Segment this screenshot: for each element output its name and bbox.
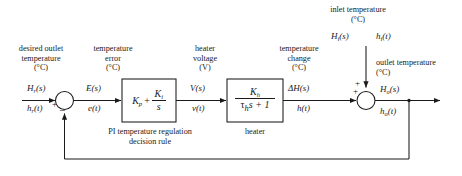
signal-outlet-laplace: Ho(s) — [380, 84, 399, 95]
signal-base: H — [27, 83, 34, 93]
gain-sub: i — [161, 93, 163, 100]
caption-line: (°C) — [376, 68, 462, 78]
error-junction-plus-sign: + — [52, 99, 57, 110]
block-diagram-canvas: desired outlet temperature (°C) temperat… — [0, 0, 462, 176]
gain-sub: h — [257, 91, 260, 98]
signal-sub: r — [34, 87, 37, 94]
caption-line: heater — [179, 44, 231, 54]
signal-outlet-time: ho(t) — [380, 106, 396, 117]
signal-reference-laplace: Hr(s) — [27, 83, 46, 94]
caption-line: temperature — [263, 44, 335, 54]
integral-term-fraction: Ki s — [152, 89, 166, 113]
caption-line: temperature — [82, 44, 144, 54]
signal-base: h — [380, 106, 385, 116]
caption-line: (V) — [179, 63, 231, 73]
caption-line: temperature — [5, 54, 77, 64]
caption-line: (°C) — [82, 63, 144, 73]
caption-heater-voltage: heater voltage (V) — [179, 44, 231, 73]
gain-sub: p — [139, 100, 142, 107]
signal-delta-h-laplace: ΔH(s) — [288, 83, 309, 94]
caption-line: voltage — [179, 54, 231, 64]
signal-arg: (s) — [339, 31, 349, 41]
caption-line: decision rule — [94, 137, 206, 147]
gain-base: K — [250, 86, 257, 97]
caption-desired-outlet-temperature: desired outlet temperature (°C) — [5, 44, 77, 73]
signal-arg: (s) — [92, 83, 102, 93]
signal-inlet-laplace: Hi(s) — [331, 31, 349, 42]
signal-arg: (s) — [36, 83, 46, 93]
signal-sub: o — [385, 110, 388, 117]
caption-line: (°C) — [303, 15, 413, 25]
integral-denominator: s — [155, 101, 163, 113]
controller-transfer-function: Kp + Ki s — [122, 79, 176, 122]
heater-transfer-function: Kh τhs + 1 — [227, 79, 283, 122]
caption-line: outlet temperature — [376, 58, 462, 68]
signal-arg: (t) — [382, 31, 391, 41]
signal-arg: (t) — [196, 103, 205, 113]
signal-voltage-time: v(t) — [192, 103, 205, 114]
heater-fraction: Kh τhs + 1 — [235, 87, 275, 114]
signal-reference-time: hr(t) — [27, 103, 43, 114]
error-junction-minus-sign: − — [59, 104, 65, 117]
signal-inlet-time: hi(t) — [376, 31, 391, 42]
output-junction-forward-plus-sign: + — [353, 86, 358, 97]
signal-base: h — [27, 103, 32, 113]
gain-base: K — [132, 95, 139, 106]
signal-arg: (s) — [390, 84, 400, 94]
heater-block-caption: heater — [227, 127, 283, 137]
signal-sub: o — [387, 88, 390, 95]
controller-plus-operator: + — [144, 95, 150, 106]
signal-base: H — [380, 84, 387, 94]
caption-line: inlet temperature — [303, 5, 413, 15]
signal-sub: r — [32, 107, 35, 114]
signal-arg: (t) — [92, 103, 101, 113]
signal-arg: (t) — [302, 103, 311, 113]
feedback-tap-node — [407, 99, 410, 102]
signal-arg: (t) — [34, 103, 43, 113]
signal-base: ΔH — [288, 83, 300, 93]
signal-arg: (s) — [300, 83, 310, 93]
signal-voltage-laplace: V(s) — [190, 83, 205, 94]
controller-block-caption: PI temperature regulation decision rule — [94, 127, 206, 146]
caption-line: change — [263, 54, 335, 64]
heater-denominator: τhs + 1 — [239, 99, 272, 114]
output-junction-circle — [357, 92, 375, 110]
caption-inlet-temperature: inlet temperature (°C) — [303, 5, 413, 24]
proportional-gain-term: Kp — [132, 95, 142, 106]
signal-base: H — [331, 31, 338, 41]
caption-line: desired outlet — [5, 44, 77, 54]
signal-arg: (t) — [388, 106, 397, 116]
signal-delta-h-time: h(t) — [297, 103, 310, 114]
signal-error-time: e(t) — [88, 103, 101, 114]
signal-error-laplace: E(s) — [86, 83, 101, 94]
caption-line: error — [82, 54, 144, 64]
caption-outlet-temperature: outlet temperature (°C) — [376, 58, 462, 77]
denominator-rest: s + 1 — [249, 99, 270, 110]
signal-arg: (s) — [196, 83, 206, 93]
caption-temperature-error: temperature error (°C) — [82, 44, 144, 73]
signal-base: h — [376, 31, 381, 41]
caption-line: PI temperature regulation — [94, 127, 206, 137]
caption-temperature-change: temperature change (°C) — [263, 44, 335, 73]
integral-gain-numerator: Ki — [153, 89, 166, 101]
caption-line: (°C) — [263, 63, 335, 73]
caption-line: (°C) — [5, 63, 77, 73]
heater-numerator: Kh — [248, 87, 262, 99]
